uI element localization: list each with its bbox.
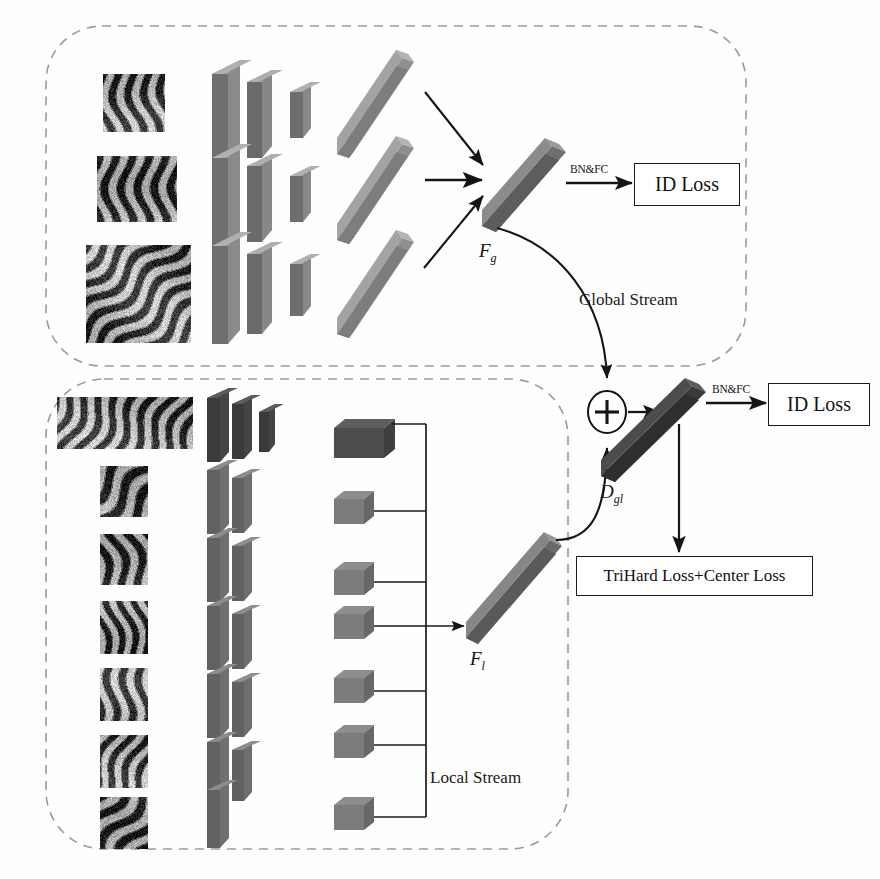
global-id-loss-box: ID Loss (634, 163, 740, 206)
global-bnfc-label: BN&FC (570, 163, 608, 175)
global-branch-top-cnn (212, 50, 414, 164)
fused-id-loss-box: ID Loss (768, 383, 870, 426)
global-feature-subscript: g (491, 251, 497, 265)
local-feature-letter: F (470, 648, 482, 669)
local-feature-label: Fl (470, 648, 485, 674)
local-cnn-row-0 (207, 388, 284, 462)
tiger-image-2 (97, 156, 177, 222)
tiger-patch-3 (100, 601, 148, 654)
local-aggregation-bracket (374, 424, 464, 817)
tiger-patch-1 (100, 466, 148, 517)
local-cnn-rows (207, 460, 261, 848)
global-stream-label: Global Stream (579, 290, 678, 310)
tiger-image-1 (103, 74, 165, 132)
fused-feature-subscript: gl (614, 492, 623, 506)
tiger-patch-4 (100, 668, 148, 721)
global-feature-letter: F (479, 240, 491, 261)
local-feature-subscript: l (482, 659, 485, 673)
fusion-node (588, 391, 660, 433)
local-stream-label: Local Stream (430, 768, 521, 788)
tiger-patch-6 (100, 797, 148, 849)
figure-canvas: BN&FC ID Loss Fg Global Stream BN&FC ID … (0, 0, 880, 879)
fused-feature-bar-Dgl (601, 378, 706, 482)
tiger-stripe-strip (57, 397, 193, 449)
global-branch-middle-cnn (212, 136, 414, 248)
global-feature-bar-Fg (482, 138, 566, 232)
local-feature-bar-Fl (466, 532, 562, 644)
global-fusion-arrows (424, 92, 483, 268)
metric-loss-box: TriHard Loss+Center Loss (576, 556, 813, 596)
tiger-patch-2 (100, 534, 148, 585)
fused-feature-label: Dgl (600, 481, 623, 507)
local-feature-boxes (334, 419, 395, 830)
fused-bnfc-label: BN&FC (712, 383, 750, 395)
global-feature-label: Fg (479, 240, 497, 266)
tiger-image-3 (86, 245, 191, 343)
tiger-patch-5 (100, 735, 148, 788)
fused-feature-letter: D (600, 481, 614, 502)
global-branch-bottom-cnn (212, 230, 414, 344)
